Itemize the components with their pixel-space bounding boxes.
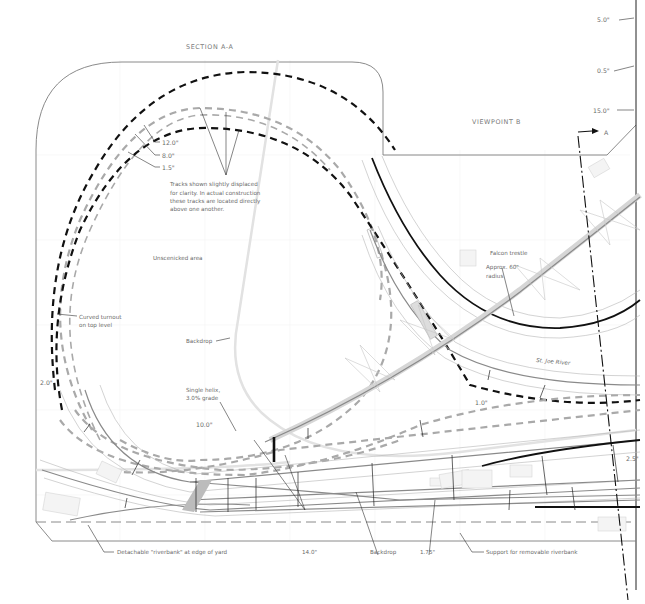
dimension-markers [84,370,618,512]
backdrop-label-upper: Backdrop [186,338,213,345]
svg-text:Single helix,: Single helix, [186,387,220,394]
river-label: St. Joe River [536,357,571,367]
section-title: SECTION A-A [186,43,234,51]
buildings [43,158,626,531]
viewpoint-label: VIEWPOINT B [472,118,521,126]
svg-text:radius: radius [486,273,503,279]
elevation-2-5: 2.5" [626,455,639,462]
track-plan-diagram: SECTION A-A VIEWPOINT B A 5.0" 0.5" 15.0… [0,0,645,604]
svg-text:Approx. 60": Approx. 60" [486,264,519,271]
curved-turnout-label: Curved turnout on top level [79,314,122,329]
svg-text:these tracks are located direc: these tracks are located directly [170,198,261,205]
elevation-1-75: 1.75" [420,549,435,555]
falcon-trestle-label: Falcon trestle [490,250,528,256]
single-helix-label: Single helix, 3.0% grade [186,387,220,402]
svg-text:Curved turnout: Curved turnout [79,314,122,320]
unscenicked-label: Unscenicked area [153,255,203,261]
background-grid [36,60,630,540]
svg-text:Tracks shown slightly displace: Tracks shown slightly displaced [169,181,258,188]
helix [52,72,640,475]
section-arrow [578,131,592,132]
elevation-10-0: 10.0" [196,421,213,428]
support-label: Support for removable riverbank [486,549,578,556]
svg-text:for clarity. In actual constru: for clarity. In actual construction [170,190,261,197]
falcon-trestle [265,195,640,442]
svg-text:3.0% grade: 3.0% grade [186,395,219,402]
helix-level-8: 8.0" [162,152,175,159]
riverbank-label: Detachable "riverbank" at edge of yard [117,549,228,556]
section-marker-a: A [604,129,609,136]
svg-text:on top level: on top level [79,322,112,329]
elevation-2-0: 2.0" [40,379,53,386]
elevation-1-0: 1.0" [475,399,488,406]
helix-note: Tracks shown slightly displaced for clar… [169,181,261,212]
helix-level-1-5: 1.5" [162,164,175,171]
helix-level-12: 12.0" [162,139,179,146]
backdrop-label-lower: Backdrop [370,549,397,556]
elevation-15-0: 15.0" [593,107,610,114]
elevation-0-5: 0.5" [597,67,610,74]
svg-text:above one another.: above one another. [170,206,224,212]
elevation-5-0: 5.0" [597,16,610,23]
elevation-14-0: 14.0" [302,549,317,555]
